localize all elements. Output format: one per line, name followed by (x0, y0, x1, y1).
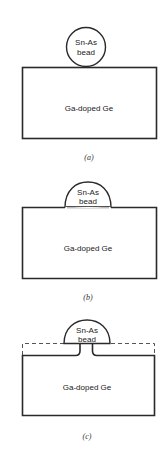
bead-label-a-line1: Sn-As (75, 38, 97, 47)
original-surface-dashed-c (23, 344, 155, 356)
panel-c: Sn-As bead Ga-doped Ge (c) (23, 320, 155, 441)
panel-a: Sn-As bead Ga-doped Ge (a) (23, 28, 157, 163)
substrate-box-b (23, 208, 157, 279)
bead-label-c-line2: bead (78, 335, 96, 344)
caption-b: (b) (83, 293, 93, 302)
substrate-box-a (23, 68, 157, 139)
caption-a: (a) (84, 153, 94, 162)
bead-label-b-line1: Sn-As (77, 188, 99, 197)
caption-c: (c) (83, 432, 92, 441)
substrate-label-a: Ga-doped Ge (65, 104, 114, 113)
substrate-label-c: Ga-doped Ge (63, 383, 112, 392)
bead-label-b-line2: bead (79, 197, 97, 206)
substrate-box-c (23, 344, 155, 416)
bead-label-a-line2: bead (77, 48, 95, 57)
bead-circle-a (67, 28, 106, 67)
alloy-junction-diagram: Sn-As bead Ga-doped Ge (a) Sn-As bead Ga… (0, 0, 159, 452)
substrate-label-b: Ga-doped Ge (64, 244, 113, 253)
bead-label-c-line1: Sn-As (76, 326, 98, 335)
panel-b: Sn-As bead Ga-doped Ge (b) (23, 182, 157, 302)
